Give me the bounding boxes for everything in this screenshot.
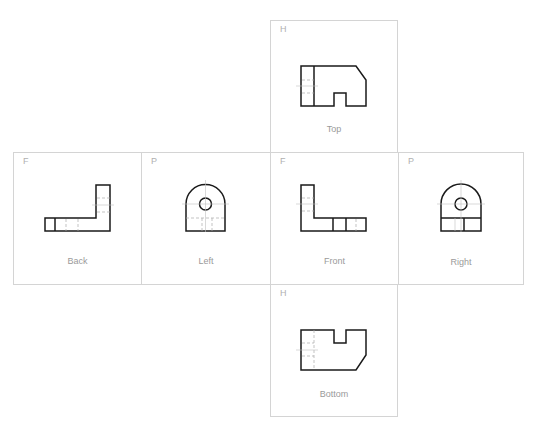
back-view-drawing bbox=[45, 185, 110, 231]
projection-drawings bbox=[0, 0, 537, 424]
